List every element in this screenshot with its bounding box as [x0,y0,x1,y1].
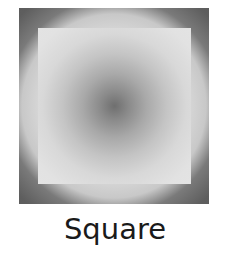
square-radial-gradient-fill [38,28,191,184]
shape-caption: Square [0,212,230,246]
